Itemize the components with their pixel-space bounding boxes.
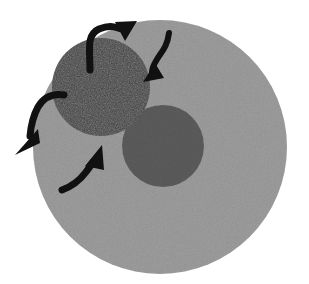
- grayscale-circles-diagram: [0, 0, 309, 284]
- figure-container: [0, 0, 309, 284]
- dark-gray-circle: [52, 38, 150, 136]
